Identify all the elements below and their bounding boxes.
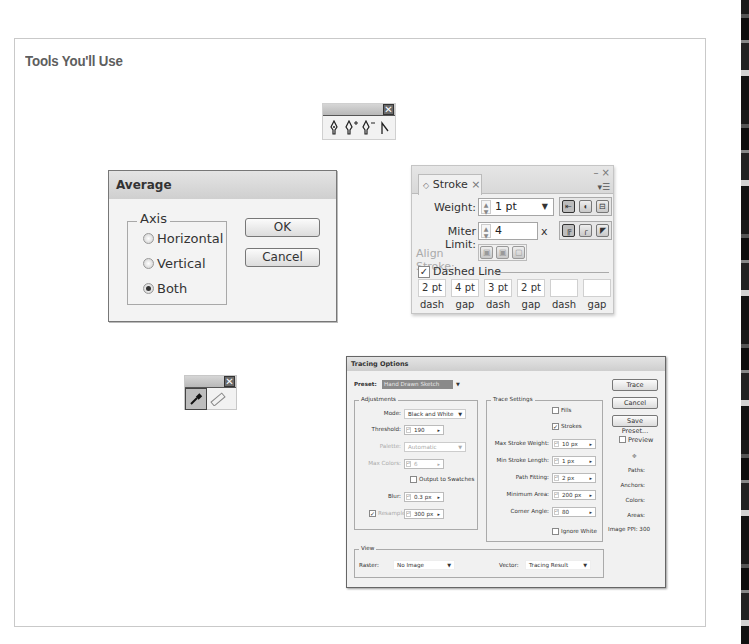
- add-anchor-point-tool-icon[interactable]: [343, 119, 359, 137]
- align-outside-icon[interactable]: ▢: [512, 246, 525, 259]
- fills-checkbox[interactable]: [552, 407, 559, 414]
- threshold-field[interactable]: ▴▾190▸: [404, 425, 444, 435]
- preset-chevron-down-icon[interactable]: ▼: [456, 381, 460, 387]
- radio-vertical[interactable]: Vertical: [143, 256, 206, 271]
- chevron-right-icon[interactable]: ▸: [437, 426, 440, 434]
- chevron-right-icon[interactable]: ▸: [589, 474, 592, 482]
- stepper-icon[interactable]: ▴▾: [406, 461, 411, 467]
- round-join-icon[interactable]: ╭: [579, 224, 592, 237]
- bevel-join-icon[interactable]: ◤: [596, 224, 609, 237]
- panel-menu-icon[interactable]: ▾☰: [597, 182, 610, 192]
- resample-label: Resample:: [378, 510, 407, 516]
- stepper-icon[interactable]: ▴▾: [554, 458, 559, 464]
- chevron-right-icon[interactable]: ▸: [437, 510, 440, 518]
- save-preset-button[interactable]: Save Preset...: [612, 415, 658, 427]
- dash-3-field[interactable]: [550, 279, 578, 297]
- stepper-icon[interactable]: ▲▼: [481, 224, 491, 238]
- vector-label: Vector:: [499, 562, 519, 568]
- miter-limit-field[interactable]: ▲▼ 4: [478, 222, 538, 240]
- preview-checkbox[interactable]: [619, 436, 626, 443]
- minimum-area-field[interactable]: ▴▾200 px▸: [552, 490, 596, 500]
- radio-button-selected-icon[interactable]: [143, 283, 154, 294]
- projecting-cap-icon[interactable]: ⊟: [596, 200, 609, 213]
- eyedropper-tool-icon[interactable]: [185, 388, 207, 410]
- max-colors-field[interactable]: ▴▾6▸: [404, 459, 444, 469]
- corner-angle-field[interactable]: ▴▾80▸: [552, 507, 596, 517]
- chevron-right-icon[interactable]: ▸: [589, 508, 592, 516]
- areas-stat: Areas:: [609, 512, 645, 518]
- toolbar-titlebar[interactable]: ✕: [185, 376, 236, 388]
- radio-both[interactable]: Both: [143, 281, 187, 296]
- trace-settings-group: [486, 400, 603, 542]
- ignore-white-checkbox[interactable]: [552, 528, 559, 535]
- measure-tool-icon[interactable]: [207, 388, 229, 410]
- stepper-icon[interactable]: ▴▾: [554, 492, 559, 498]
- stepper-icon[interactable]: ▲▼: [481, 200, 491, 214]
- round-cap-icon[interactable]: ◖: [579, 200, 592, 213]
- output-to-swatches-checkbox[interactable]: [410, 476, 417, 483]
- dashed-line-checkbox[interactable]: ✓ Dashed Line: [418, 265, 501, 278]
- stepper-icon[interactable]: ▴▾: [406, 511, 411, 517]
- stroke-panel: ◇ Stroke × – × ▾☰ Weight: ▲▼ 1 pt ▼ ⇤ ◖ …: [411, 165, 614, 314]
- preset-label: Preset:: [354, 381, 377, 387]
- weight-field[interactable]: ▲▼ 1 pt ▼: [478, 198, 554, 216]
- pen-tool-icon[interactable]: [326, 119, 342, 137]
- max-stroke-weight-field[interactable]: ▴▾10 px▸: [552, 439, 596, 449]
- checkbox-checked-icon[interactable]: ✓: [418, 266, 430, 278]
- cancel-button[interactable]: Cancel: [245, 248, 320, 267]
- delete-anchor-point-tool-icon[interactable]: [360, 119, 376, 137]
- palette-select[interactable]: Automatic▼: [404, 442, 466, 452]
- gap-2-field[interactable]: 2 pt: [517, 279, 545, 297]
- tab-stroke[interactable]: ◇ Stroke ×: [418, 174, 482, 195]
- align-inside-icon[interactable]: ▣: [496, 246, 509, 259]
- chevron-right-icon[interactable]: ▸: [437, 493, 440, 501]
- chevron-right-icon[interactable]: ▸: [589, 457, 592, 465]
- convert-anchor-point-tool-icon[interactable]: [377, 119, 393, 137]
- output-to-swatches-label: Output to Swatches: [419, 476, 474, 482]
- align-center-icon[interactable]: ▣: [480, 246, 493, 259]
- path-fitting-field[interactable]: ▴▾2 px▸: [552, 473, 596, 483]
- cancel-button[interactable]: Cancel: [612, 397, 658, 409]
- toolbar-titlebar[interactable]: ✕: [323, 104, 395, 116]
- stepper-icon[interactable]: ▴▾: [554, 509, 559, 515]
- max-stroke-weight-label: Max Stroke Weight:: [487, 440, 549, 446]
- stepper-icon[interactable]: ▴▾: [406, 494, 411, 500]
- close-icon[interactable]: ✕: [224, 376, 235, 387]
- gap-label: gap: [516, 299, 546, 310]
- butt-cap-icon[interactable]: ⇤: [562, 200, 575, 213]
- resample-checkbox[interactable]: ✓: [369, 510, 376, 517]
- gap-1-field[interactable]: 4 pt: [451, 279, 479, 297]
- dash-1-field[interactable]: 2 pt: [418, 279, 446, 297]
- adjustments-legend: Adjustments: [359, 396, 398, 402]
- dash-2-field[interactable]: 3 pt: [484, 279, 512, 297]
- radio-horizontal[interactable]: Horizontal: [143, 231, 223, 246]
- align-stroke-group: ▣ ▣ ▢: [478, 244, 527, 261]
- gap-3-field[interactable]: [583, 279, 611, 297]
- stepper-icon[interactable]: ▴▾: [406, 427, 411, 433]
- chevron-down-icon: ▼: [447, 561, 451, 569]
- preset-select[interactable]: Hand Drawn Sketch: [382, 380, 453, 389]
- radio-button-icon[interactable]: [143, 233, 154, 244]
- chevron-down-icon[interactable]: ▼: [542, 199, 548, 215]
- close-icon[interactable]: ✕: [383, 104, 394, 115]
- miter-unit: x: [541, 225, 549, 238]
- chevron-right-icon[interactable]: ▸: [589, 440, 592, 448]
- trace-button[interactable]: Trace: [612, 379, 658, 391]
- info-icon: ✥: [632, 453, 637, 459]
- minimize-close-icon[interactable]: – ×: [593, 167, 610, 178]
- mode-select[interactable]: Black and White▼: [404, 409, 466, 419]
- strokes-checkbox[interactable]: ✓: [552, 423, 559, 430]
- resample-field[interactable]: ▴▾300 px▸: [404, 509, 444, 519]
- chevron-right-icon[interactable]: ▸: [437, 460, 440, 468]
- stepper-icon[interactable]: ▴▾: [554, 441, 559, 447]
- vector-select[interactable]: Tracing Result▼: [525, 560, 591, 570]
- chevron-right-icon[interactable]: ▸: [589, 491, 592, 499]
- blur-field[interactable]: ▴▾0.3 px▸: [404, 492, 444, 502]
- min-stroke-length-field[interactable]: ▴▾1 px▸: [552, 456, 596, 466]
- stepper-icon[interactable]: ▴▾: [554, 475, 559, 481]
- radio-button-icon[interactable]: [143, 258, 154, 269]
- tab-close-icon[interactable]: ×: [471, 178, 480, 191]
- miter-join-icon[interactable]: ╔: [562, 224, 575, 237]
- raster-select[interactable]: No Image▼: [393, 560, 455, 570]
- ok-button[interactable]: OK: [245, 218, 320, 237]
